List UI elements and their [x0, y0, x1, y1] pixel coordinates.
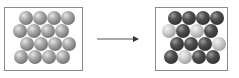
arrow-head-icon	[133, 36, 139, 42]
arrow	[0, 0, 239, 78]
